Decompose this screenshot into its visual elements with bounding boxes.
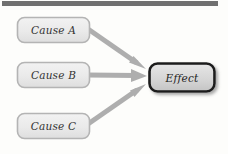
edge-cause-a-to-effect xyxy=(88,29,146,69)
edge-cause-c-to-effect xyxy=(88,84,146,124)
edge-cause-b-to-effect xyxy=(88,69,147,82)
node-cause-c[interactable] xyxy=(18,114,90,139)
top-divider-bar xyxy=(2,1,218,6)
diagram-canvas: Cause A Cause B Cause C Effect xyxy=(0,0,228,154)
node-cause-b[interactable] xyxy=(18,63,90,88)
cause-effect-diagram xyxy=(0,0,228,154)
node-effect[interactable] xyxy=(150,64,215,92)
node-cause-a[interactable] xyxy=(18,18,90,43)
